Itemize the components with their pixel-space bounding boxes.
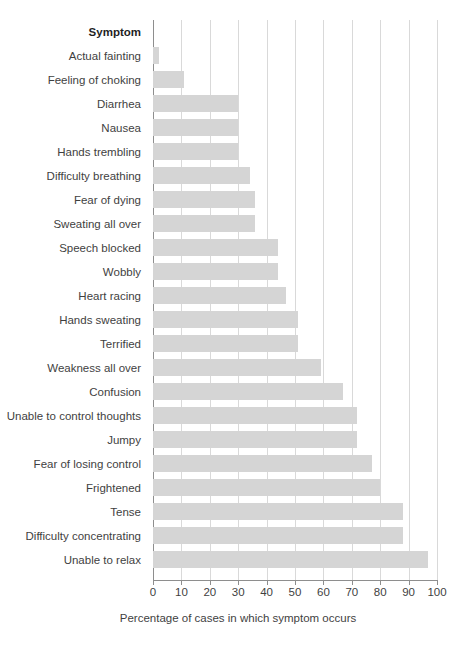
x-tick-mark-20 <box>210 581 211 585</box>
bar <box>153 407 357 424</box>
gridline-100 <box>437 20 438 580</box>
bar <box>153 431 357 448</box>
horizontal-bar-chart: Symptom Actual faintingFeeling of chokin… <box>0 0 476 647</box>
category-axis-labels: Symptom Actual faintingFeeling of chokin… <box>0 20 147 580</box>
bar-row <box>153 308 437 332</box>
bar <box>153 95 238 112</box>
bar <box>153 479 380 496</box>
bar <box>153 287 286 304</box>
bar-row <box>153 380 437 404</box>
bar <box>153 359 321 376</box>
bar-row <box>153 188 437 212</box>
category-label: Diarrhea <box>0 92 147 116</box>
bar-row <box>153 116 437 140</box>
bar <box>153 47 159 64</box>
category-label: Terrified <box>0 332 147 356</box>
x-tick-mark-80 <box>380 581 381 585</box>
bar-row <box>153 356 437 380</box>
bar <box>153 455 372 472</box>
bar <box>153 311 298 328</box>
bar-row <box>153 164 437 188</box>
category-label: Weakness all over <box>0 356 147 380</box>
category-label: Nausea <box>0 116 147 140</box>
x-axis-ticks: 0102030405060708090100 <box>153 581 437 601</box>
category-label: Confusion <box>0 380 147 404</box>
x-tick-label-100: 100 <box>417 586 457 598</box>
bar-row <box>153 404 437 428</box>
category-label: Difficulty concentrating <box>0 524 147 548</box>
bar <box>153 191 255 208</box>
x-tick-mark-30 <box>238 581 239 585</box>
bar <box>153 143 238 160</box>
x-tick-mark-50 <box>295 581 296 585</box>
category-label: Tense <box>0 500 147 524</box>
bar-row <box>153 524 437 548</box>
category-label: Hands trembling <box>0 140 147 164</box>
bar-row <box>153 212 437 236</box>
category-label: Frightened <box>0 476 147 500</box>
bar-row <box>153 332 437 356</box>
bar-row <box>153 140 437 164</box>
y-axis-header: Symptom <box>0 20 147 44</box>
category-label: Difficulty breathing <box>0 164 147 188</box>
x-tick-mark-40 <box>267 581 268 585</box>
bar-row <box>153 68 437 92</box>
category-label: Actual fainting <box>0 44 147 68</box>
category-label: Heart racing <box>0 284 147 308</box>
x-tick-mark-90 <box>409 581 410 585</box>
bar-row <box>153 548 437 572</box>
bar-row <box>153 500 437 524</box>
bar-row <box>153 92 437 116</box>
x-tick-mark-100 <box>437 581 438 585</box>
category-label: Sweating all over <box>0 212 147 236</box>
bar <box>153 335 298 352</box>
bar <box>153 503 403 520</box>
bar <box>153 215 255 232</box>
category-label: Wobbly <box>0 260 147 284</box>
bar-rows <box>153 20 437 580</box>
bar <box>153 167 250 184</box>
x-tick-mark-60 <box>323 581 324 585</box>
bar <box>153 239 278 256</box>
bar-row <box>153 260 437 284</box>
bar-row <box>153 284 437 308</box>
category-label: Unable to relax <box>0 548 147 572</box>
bar-row <box>153 476 437 500</box>
category-label: Hands sweating <box>0 308 147 332</box>
category-label: Fear of dying <box>0 188 147 212</box>
bar-row <box>153 428 437 452</box>
bar <box>153 119 238 136</box>
bar-row <box>153 44 437 68</box>
x-tick-mark-0 <box>153 581 154 585</box>
plot-area <box>153 20 437 580</box>
category-label: Feeling of choking <box>0 68 147 92</box>
bar <box>153 71 184 88</box>
bar <box>153 383 343 400</box>
bar-row <box>153 452 437 476</box>
category-label: Unable to control thoughts <box>0 404 147 428</box>
category-label: Jumpy <box>0 428 147 452</box>
category-label: Speech blocked <box>0 236 147 260</box>
x-tick-mark-10 <box>181 581 182 585</box>
bar-row <box>153 236 437 260</box>
x-axis-title: Percentage of cases in which symptom occ… <box>0 612 476 624</box>
x-tick-mark-70 <box>352 581 353 585</box>
bar <box>153 527 403 544</box>
bar <box>153 551 428 568</box>
bar <box>153 263 278 280</box>
category-label: Fear of losing control <box>0 452 147 476</box>
